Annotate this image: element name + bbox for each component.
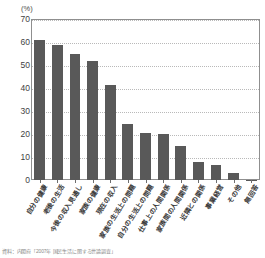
bar [228, 173, 239, 180]
y-axis-tick-label: 10 [4, 153, 30, 162]
x-axis-category-label-wrapper: 無回答 [243, 183, 260, 204]
y-axis-unit-label: (%) [21, 4, 33, 13]
bar-chart: (%) 010203040506070 自分の健康老後の生活今後の収入見通し家族… [0, 0, 265, 258]
bar [158, 134, 169, 180]
bar [34, 40, 45, 180]
y-axis-tick-label: 70 [4, 15, 30, 24]
y-axis-tick-label: 30 [4, 107, 30, 116]
bars-layer [31, 19, 260, 180]
x-axis-category-label: 事業経営 [204, 183, 225, 210]
y-axis-tick-label: 50 [4, 61, 30, 70]
y-axis-tick-label: 40 [4, 84, 30, 93]
x-axis-category-labels: 自分の健康老後の生活今後の収入見通し家族の健康現在の収入家族の生活上の問題自分の… [0, 183, 265, 243]
bar [175, 146, 186, 180]
x-axis-category-label: その他 [226, 183, 243, 204]
x-axis-category-label-wrapper: その他 [226, 183, 243, 204]
y-axis-tick-label: 20 [4, 130, 30, 139]
bar [122, 124, 133, 180]
x-axis-category-label: 無回答 [243, 183, 260, 204]
bar [52, 45, 63, 180]
y-axis-tick-label: 60 [4, 38, 30, 47]
x-axis-category-label-wrapper: 事業経営 [204, 183, 225, 210]
bar [70, 54, 81, 181]
bar [193, 162, 204, 180]
bar [87, 61, 98, 180]
bar [211, 165, 222, 180]
bar [105, 85, 116, 180]
bar [140, 133, 151, 180]
chart-source-footnote: 資料：内閣府「2007年 国民生活に関する世論調査」 [2, 248, 116, 254]
